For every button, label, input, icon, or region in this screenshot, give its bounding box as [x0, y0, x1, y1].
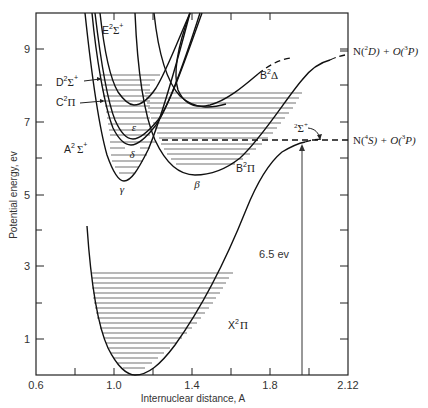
delta-band-label: δ	[129, 148, 135, 160]
y-tick-7: 7	[24, 116, 30, 128]
x-axis-ticks	[75, 368, 309, 375]
gamma-band-label: γ	[120, 183, 125, 195]
a-sigma-curve	[85, 13, 190, 181]
n2d-o3p-label: N(2D) + O(3P)	[353, 44, 418, 58]
b-delta-label: B2Δ	[260, 68, 278, 81]
dissociation-arrow-head	[299, 144, 305, 151]
dissociation-energy-label: 6.5 ev	[259, 248, 289, 260]
b-delta-curve	[176, 13, 258, 106]
d-sigma-label: D2Σ+	[56, 74, 78, 88]
y-axis-title: Potential energy, ev	[8, 151, 19, 239]
potential-energy-diagram: 9 7 5 3 1 0.6 1.0 1.4 1.8 2.12 Internucl…	[0, 0, 428, 408]
y-tick-9: 9	[24, 43, 30, 55]
c-pi-pointer	[80, 101, 103, 103]
b-pi-curve-dashed-end	[330, 55, 345, 60]
y-axis-ticks	[36, 49, 44, 339]
x-tick-1-4: 1.4	[184, 379, 199, 391]
y-axis-ticks-right	[340, 49, 348, 339]
x-state-vibrational-levels	[92, 273, 233, 368]
y-tick-3: 3	[24, 260, 30, 272]
x-tick-1-8: 1.8	[262, 379, 277, 391]
x-tick-0-6: 0.6	[28, 379, 43, 391]
beta-band-label: β	[193, 178, 200, 190]
epsilon-band-label: ε	[132, 121, 137, 133]
y-tick-1: 1	[24, 333, 30, 345]
x-tick-1-0: 1.0	[106, 379, 121, 391]
c-pi-label: C2Π	[56, 95, 76, 108]
b-pi-label: B2Π	[236, 161, 255, 174]
x-pi-label: X2Π	[228, 318, 248, 331]
sigma-plus-label: 2Σ+	[294, 121, 308, 134]
x-axis-title: Internuclear distance, A	[141, 393, 246, 404]
x-axis-ticks-top	[114, 13, 270, 20]
x-tick-2-12: 2.12	[337, 379, 358, 391]
b-pi-vibrational-levels	[145, 93, 302, 164]
y-tick-5: 5	[24, 189, 30, 201]
n4s-o3p-label: N(4S) + O(3P)	[353, 133, 416, 147]
e-sigma-label: E2Σ+	[102, 22, 123, 36]
a-sigma-label: A2Σ+	[64, 141, 87, 155]
